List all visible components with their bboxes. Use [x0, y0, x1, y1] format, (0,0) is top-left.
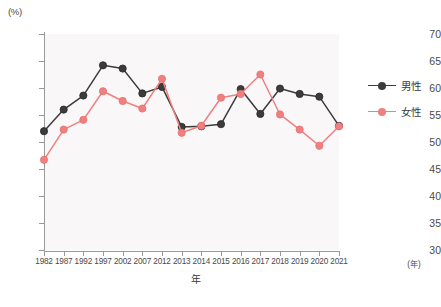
- x-axis-tick-label: 2020: [311, 257, 328, 266]
- y-axis-tick: [39, 250, 44, 251]
- x-axis-tick-label: 2015: [212, 257, 229, 266]
- x-axis-tick: [162, 252, 163, 256]
- y-axis-tick: [39, 196, 44, 197]
- x-axis-tick-label: 2002: [114, 257, 131, 266]
- y-axis-tick: [39, 223, 44, 224]
- x-axis-tick: [241, 252, 242, 256]
- x-axis-tick-label: 2016: [232, 257, 249, 266]
- x-axis-tick-label: 1982: [35, 257, 52, 266]
- legend-marker-female-icon: [368, 106, 396, 116]
- legend: 男性 女性: [368, 72, 421, 124]
- x-axis-tick: [182, 252, 183, 256]
- y-axis-unit-label: (%): [8, 6, 22, 17]
- y-axis-line: [44, 32, 45, 252]
- x-axis-tick: [142, 252, 143, 256]
- x-axis-tick-label: 2021: [330, 257, 347, 266]
- x-axis-tick: [221, 252, 222, 256]
- x-axis-tick: [319, 252, 320, 256]
- x-axis-tick: [64, 252, 65, 256]
- legend-item-male[interactable]: 男性: [368, 72, 421, 98]
- x-axis-tick: [83, 252, 84, 256]
- x-axis-unit-label: (年): [407, 257, 420, 269]
- y-axis-tick-label: 40: [403, 191, 441, 202]
- x-axis-tick-label: 1987: [55, 257, 72, 266]
- x-axis-tick: [44, 252, 45, 256]
- x-axis-tick: [260, 252, 261, 256]
- y-axis-tick-label: 50: [403, 137, 441, 148]
- legend-label-male: 男性: [401, 78, 421, 93]
- legend-marker-male-icon: [368, 80, 396, 90]
- y-axis-tick-label: 45: [403, 164, 441, 175]
- x-axis-tick: [103, 252, 104, 256]
- y-axis-tick: [39, 61, 44, 62]
- legend-item-female[interactable]: 女性: [368, 98, 421, 124]
- plot-area-background: [44, 34, 339, 250]
- y-axis-tick: [39, 115, 44, 116]
- x-axis-tick-label: 2012: [153, 257, 170, 266]
- y-axis-tick-label: 65: [403, 56, 441, 67]
- legend-label-female: 女性: [401, 104, 421, 119]
- x-axis-tick-label: 2013: [173, 257, 190, 266]
- x-axis-tick-label: 1992: [75, 257, 92, 266]
- y-axis-tick-label: 30: [403, 245, 441, 256]
- y-axis-tick: [39, 142, 44, 143]
- y-axis-tick: [39, 34, 44, 35]
- x-axis-tick: [123, 252, 124, 256]
- y-axis-tick: [39, 88, 44, 89]
- x-axis-tick: [300, 252, 301, 256]
- x-axis-tick-label: 2019: [291, 257, 308, 266]
- x-axis-tick-label: 2018: [271, 257, 288, 266]
- bottom-margin: [0, 297, 441, 307]
- x-axis-tick: [280, 252, 281, 256]
- x-axis-tick-label: 2007: [134, 257, 151, 266]
- x-axis-title: 年: [191, 271, 201, 286]
- x-axis-tick-label: 2014: [193, 257, 210, 266]
- y-axis-tick: [39, 169, 44, 170]
- y-axis-tick-label: 35: [403, 218, 441, 229]
- x-axis-tick: [201, 252, 202, 256]
- line-chart: (%) 706560555045403530 19821987199219972…: [0, 0, 441, 307]
- x-axis-tick-label: 1997: [94, 257, 111, 266]
- x-axis-tick: [339, 252, 340, 256]
- x-axis-line: [44, 251, 340, 252]
- x-axis-tick-label: 2017: [252, 257, 269, 266]
- y-axis-tick-label: 70: [403, 29, 441, 40]
